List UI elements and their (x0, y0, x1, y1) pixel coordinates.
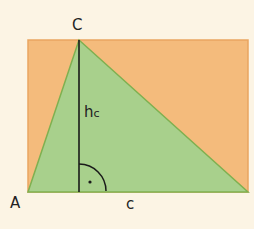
right-angle-dot (88, 180, 91, 183)
height-subscript: c (94, 107, 100, 120)
height-hc-label: hc (84, 105, 100, 120)
vertex-a-label: A (10, 196, 20, 211)
side-c-label: c (126, 197, 134, 212)
vertex-c-label: C (72, 18, 82, 33)
height-h: h (84, 103, 94, 121)
